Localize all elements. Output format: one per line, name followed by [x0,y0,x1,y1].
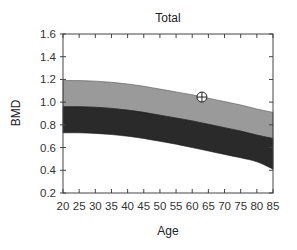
chart-title: Total [155,11,180,25]
y-tick-label: 1.2 [40,73,56,85]
plot-area: 2025303540455055606570758085 0.20.40.60.… [40,28,279,212]
x-tick-label: 40 [121,200,134,212]
patient-marker [197,92,207,102]
x-tick-label: 75 [234,200,247,212]
x-axis-label: Age [157,224,179,238]
y-tick-label: 0.2 [40,187,56,199]
x-tick-label: 20 [57,200,70,212]
x-tick-label: 65 [202,200,215,212]
x-tick-label: 55 [170,200,183,212]
x-tick-label: 85 [267,200,280,212]
y-tick-label: 1.0 [40,96,56,108]
bmd-chart: Total 2025303540455055606570758085 0.20.… [0,0,297,250]
x-tick-label: 25 [73,200,86,212]
x-tick-label: 30 [89,200,102,212]
y-tick-label: 1.6 [40,28,56,40]
y-tick-label: 1.4 [40,51,57,63]
x-tick-label: 50 [154,200,167,212]
y-tick-label: 0.6 [40,142,56,154]
x-tick-label: 45 [137,200,150,212]
x-tick-label: 80 [250,200,263,212]
x-tick-label: 70 [218,200,231,212]
x-tick-label: 60 [186,200,199,212]
x-tick-label: 35 [105,200,118,212]
y-axis-label: BMD [9,99,23,126]
y-tick-label: 0.4 [40,164,57,176]
y-tick-label: 0.8 [40,119,56,131]
